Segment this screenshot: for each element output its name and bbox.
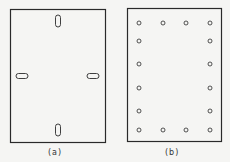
slot-top	[56, 15, 61, 27]
slot-bottom	[56, 124, 61, 136]
panel-a	[11, 10, 106, 143]
holes	[137, 21, 212, 132]
plate-a-outline	[11, 10, 106, 143]
slot-right	[87, 74, 99, 79]
slot-left	[16, 74, 28, 79]
panel-b-label: (b)	[165, 148, 179, 157]
figure-canvas	[0, 0, 230, 162]
panel-a-label: (a)	[48, 148, 62, 157]
panel-b	[128, 9, 222, 142]
plate-b-outline	[128, 9, 222, 142]
